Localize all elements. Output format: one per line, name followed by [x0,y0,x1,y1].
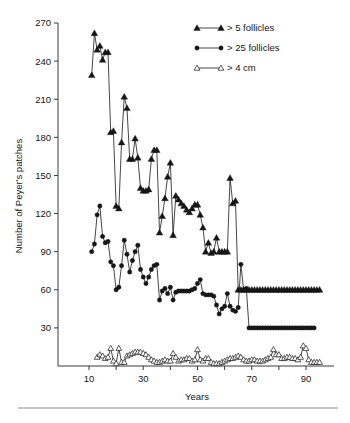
x-axis-title: Years [185,391,209,402]
data-point [163,286,167,290]
y-tick-label: 180 [35,132,51,143]
data-point [244,286,248,290]
data-point [312,326,316,330]
data-point [165,291,169,295]
data-point [228,304,232,308]
y-tick-label: 150 [35,170,51,181]
data-point [106,239,110,243]
data-point [217,312,221,316]
data-point [98,204,102,208]
data-point [225,291,229,295]
data-point [214,303,218,307]
data-point [122,238,126,242]
data-point [149,267,153,271]
data-point [111,263,115,267]
data-point [109,260,113,264]
data-point [136,243,140,247]
data-point [144,281,148,285]
data-point [219,46,223,50]
data-point [198,277,202,281]
x-tick-label: 70 [246,373,257,384]
data-point [138,267,142,271]
data-point [193,286,197,290]
data-point [90,249,94,253]
y-tick-label: 30 [40,322,51,333]
data-point [157,298,161,302]
data-point [95,213,99,217]
data-point [127,270,131,274]
chart-figure: 306090120150180210240270 1030507090 Numb… [0,0,350,423]
data-point [92,242,96,246]
data-point [141,275,145,279]
data-point [133,249,137,253]
y-tick-label: 240 [35,56,51,67]
data-point [117,285,121,289]
data-point [100,234,104,238]
y-tick-label: 120 [35,208,51,219]
data-point [195,46,199,50]
data-point [212,294,216,298]
data-point [195,281,199,285]
y-tick-label: 60 [40,284,51,295]
data-point [168,285,172,289]
data-point [239,262,243,266]
x-tick-label: 30 [138,373,149,384]
legend-label: > 5 follicles [227,22,275,33]
data-point [233,309,237,313]
x-tick-label: 10 [84,373,95,384]
peyers-patches-line-chart: 306090120150180210240270 1030507090 Numb… [0,0,350,423]
data-point [222,304,226,308]
y-tick-label: 210 [35,94,51,105]
x-tick-label: 50 [192,373,203,384]
x-tick-label: 90 [301,373,312,384]
data-point [125,252,129,256]
data-point [171,298,175,302]
data-point [146,275,150,279]
data-point [236,305,240,309]
y-tick-label: 270 [35,17,51,28]
legend-label: > 4 cm [227,62,256,73]
y-tick-label: 90 [40,246,51,257]
data-point [130,258,134,262]
legend-label: > 25 follicles [227,42,280,53]
data-point [119,263,123,267]
data-point [155,262,159,266]
y-axis-title: Number of Peyer's patches [13,139,24,254]
